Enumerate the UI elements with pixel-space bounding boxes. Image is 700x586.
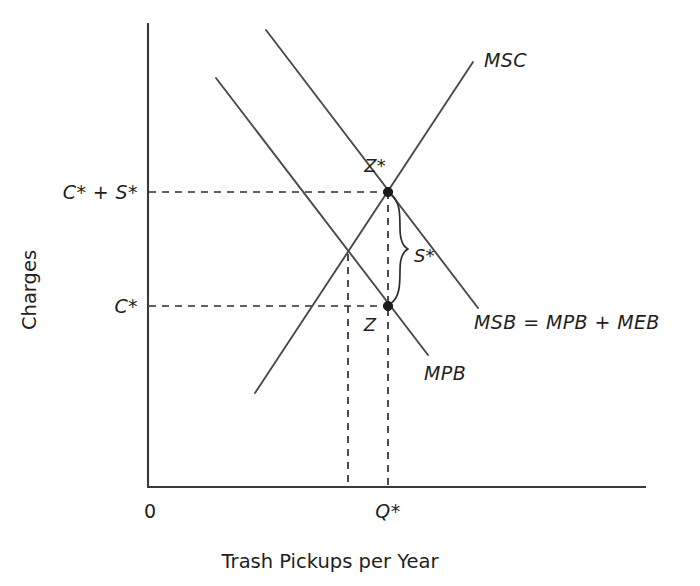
curve-msc [255, 62, 473, 393]
curve-label-mpb: MPB [424, 362, 466, 384]
labels-group: MSC MPB MSB = MPB + MEB Z* Z S* C* + S* … [18, 49, 660, 573]
guide-lines-group [149, 192, 388, 486]
x-axis-title: Trash Pickups per Year [221, 550, 440, 573]
curve-mpb [216, 78, 428, 355]
axis-lines [148, 24, 645, 487]
x-tick-label-qstar: Q* [375, 500, 400, 522]
curve-label-msb: MSB = MPB + MEB [474, 311, 660, 333]
y-axis-title: Charges [18, 250, 41, 330]
point-label-z: Z [363, 314, 377, 335]
y-tick-label-cstar-plus-sstar: C* + S* [63, 181, 138, 203]
point-z-star [383, 187, 392, 196]
curves-group [216, 30, 478, 393]
curve-label-msc: MSC [484, 49, 527, 71]
externality-diagram-figure: MSC MPB MSB = MPB + MEB Z* Z S* C* + S* … [0, 0, 700, 586]
brace-icon [390, 194, 408, 304]
origin-label: 0 [144, 500, 156, 522]
diagram-canvas: MSC MPB MSB = MPB + MEB Z* Z S* C* + S* … [0, 0, 700, 586]
point-z [383, 301, 392, 310]
subsidy-brace-group [390, 194, 408, 304]
axes-group [148, 24, 645, 487]
annotation-label-subsidy: S* [414, 245, 434, 266]
point-label-z-star: Z* [363, 155, 385, 176]
y-tick-label-cstar: C* [114, 295, 138, 317]
